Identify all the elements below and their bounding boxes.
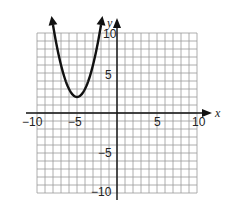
x-tick-label: 5 — [154, 115, 161, 129]
x-axis-label: x — [214, 106, 221, 120]
x-tick-label: −10 — [22, 115, 43, 129]
coordinate-plane: x y −10 −5 5 10 10 5 −5 −10 — [0, 0, 237, 200]
y-tick-label: −10 — [91, 185, 112, 199]
x-tick-label: 10 — [192, 115, 206, 129]
y-tick-label: 5 — [105, 68, 112, 82]
y-tick-label: −5 — [98, 146, 112, 160]
y-tick-label: 10 — [103, 27, 117, 41]
curve-arrow-left-icon — [49, 16, 58, 26]
x-tick-label: −5 — [68, 115, 82, 129]
curve-arrow-right-icon — [97, 16, 106, 26]
